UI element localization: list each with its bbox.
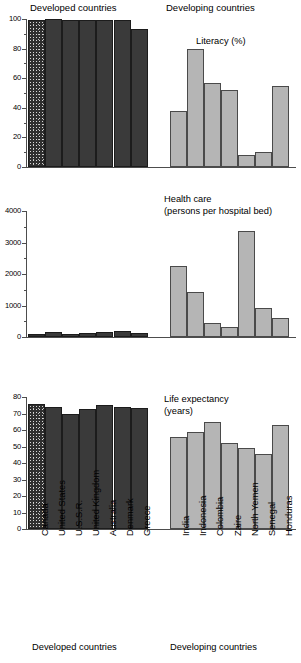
y-tick-label: 20 [13, 134, 21, 142]
x-label-united-kingdom: United Kingdom [92, 470, 101, 536]
y-tick [22, 529, 26, 530]
panel-health-care: Health care (persons per hospital bed) 0… [0, 180, 301, 360]
x-label-north-yemen: North Yemen [251, 482, 260, 536]
x-label-greece: Greece [143, 506, 152, 537]
x-label-colombia: Colombia [216, 497, 225, 536]
x-axis-health-care [26, 337, 296, 338]
bar [28, 20, 45, 167]
y-tick [22, 480, 26, 481]
y-tick-minor [24, 34, 27, 35]
y-tick [22, 137, 26, 138]
bar [131, 333, 148, 337]
y-tick-label: 2000 [5, 270, 21, 278]
y-tick-minor [24, 123, 27, 124]
y-tick [22, 19, 26, 20]
footer-group-developed: Developed countries [32, 642, 117, 652]
bar [96, 332, 113, 337]
x-label-united-states: United States [58, 480, 67, 536]
x-label-honduras: Honduras [285, 496, 294, 536]
x-axis-literacy [26, 167, 296, 168]
y-tick-label: 30 [13, 476, 21, 484]
bar [170, 266, 187, 337]
y-tick [22, 397, 26, 398]
bar [221, 90, 238, 167]
y-tick-minor [24, 321, 27, 322]
y-tick-minor [24, 227, 27, 228]
plot-area-literacy: 020406080100 [26, 19, 296, 168]
panel-literacy: Literacy (%) 020406080100 [0, 0, 301, 180]
y-tick [22, 108, 26, 109]
bar [131, 29, 148, 167]
bar [221, 327, 238, 337]
y-tick-label: 0 [17, 525, 21, 533]
bar [28, 334, 45, 337]
bar [114, 331, 131, 337]
bar [238, 231, 255, 337]
y-tick-label: 40 [13, 104, 21, 112]
y-tick [22, 414, 26, 415]
y-tick-label: 60 [13, 426, 21, 434]
y-tick-minor [24, 63, 27, 64]
figure-root: Developed countries Developing countries… [0, 0, 301, 663]
y-tick-minor [24, 258, 27, 259]
y-tick [22, 513, 26, 514]
bar [204, 83, 221, 167]
x-label-india: India [182, 516, 191, 536]
y-tick [22, 211, 26, 212]
bars-health-care [26, 210, 296, 337]
y-tick-label: 60 [13, 74, 21, 82]
x-label-indonesia: Indonesia [199, 496, 208, 536]
y-tick-label: 80 [13, 45, 21, 53]
y-tick [22, 274, 26, 275]
y-tick [22, 496, 26, 497]
bar [170, 111, 187, 167]
bar [238, 155, 255, 167]
y-tick [22, 463, 26, 464]
bar [187, 49, 204, 167]
bars-literacy [26, 18, 296, 167]
bar [79, 20, 96, 167]
y-tick-label: 0 [17, 333, 21, 341]
y-tick-label: 100 [9, 15, 21, 23]
y-tick-label: 70 [13, 410, 21, 418]
plot-area-health-care: 01000200030004000 [26, 211, 296, 338]
x-label-zaire: Zaire [234, 515, 243, 536]
y-tick-minor [24, 152, 27, 153]
bar [96, 20, 113, 167]
bar [255, 152, 272, 167]
x-label-u-s-s-r: U.S.S.R. [75, 500, 84, 536]
bar [204, 323, 221, 337]
bar [187, 292, 204, 337]
bar [45, 19, 62, 167]
x-axis-category-labels: CanadaUnited StatesU.S.S.R.United Kingdo… [0, 534, 301, 644]
bar [272, 86, 289, 167]
x-label-denmark: Denmark [126, 498, 135, 536]
y-tick [22, 337, 26, 338]
y-tick-minor [24, 290, 27, 291]
y-tick-label: 1000 [5, 302, 21, 310]
y-tick-label: 3000 [5, 239, 21, 247]
x-label-senegal: Senegal [268, 502, 277, 536]
y-tick-label: 4000 [5, 207, 21, 215]
bar [255, 308, 272, 337]
y-tick [22, 49, 26, 50]
y-tick [22, 306, 26, 307]
y-tick-label: 80 [13, 393, 21, 401]
y-tick-label: 0 [17, 163, 21, 171]
bar [62, 334, 79, 337]
x-label-australia: Australia [109, 500, 118, 536]
footer-group-developing: Developing countries [170, 642, 257, 652]
y-tick [22, 430, 26, 431]
y-tick-label: 40 [13, 459, 21, 467]
bar [114, 20, 131, 167]
y-tick [22, 167, 26, 168]
bar [272, 318, 289, 337]
bar [62, 20, 79, 167]
y-tick-minor [24, 93, 27, 94]
y-tick-label: 20 [13, 492, 21, 500]
y-tick [22, 78, 26, 79]
x-label-canada: Canada [41, 503, 50, 536]
y-tick [22, 243, 26, 244]
y-tick-label: 50 [13, 443, 21, 451]
y-tick-label: 10 [13, 509, 21, 517]
